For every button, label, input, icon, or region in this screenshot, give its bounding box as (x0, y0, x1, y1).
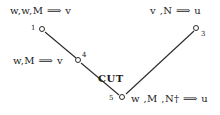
node-id-1: 1 (31, 25, 35, 32)
node-id-4: 4 (82, 52, 86, 59)
proof-node-1[interactable] (39, 26, 45, 32)
proof-node-4[interactable] (75, 57, 81, 63)
sequent-bottom-right: w ,M ,N† ⟹ u (131, 94, 208, 104)
sequent-top-left: w,w,M ⟹ v (10, 6, 71, 16)
proof-node-5[interactable] (119, 94, 125, 100)
node-id-3: 3 (201, 31, 205, 38)
node-id-5: 5 (109, 95, 113, 102)
sequent-mid-left: w,M ⟹ v (13, 56, 63, 66)
proof-tree-figure: 1 4 3 5 w,w,M ⟹ v v ,N ⟹ u w,M ⟹ v w ,M … (0, 0, 220, 115)
edge-5-to-3 (126, 31, 194, 94)
sequent-top-right: v ,N ⟹ u (150, 6, 201, 16)
proof-node-3[interactable] (193, 25, 199, 31)
cut-rule-label: CUT (98, 74, 124, 84)
